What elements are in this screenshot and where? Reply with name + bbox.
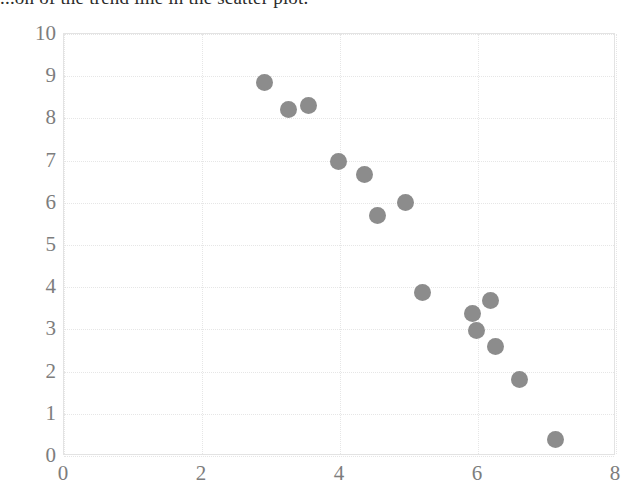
y-axis-tick-labels: 012345678910 <box>0 33 56 455</box>
y-axis-tick-label: 7 <box>2 149 56 170</box>
gridline-horizontal <box>64 76 614 77</box>
y-axis-tick-label: 3 <box>2 318 56 339</box>
clipped-question-text: ...on of the trend line in the scatter p… <box>0 0 635 9</box>
data-point <box>369 207 386 224</box>
y-axis-tick-label: 4 <box>2 276 56 297</box>
scatter-plot-figure: 012345678910 02468 <box>0 13 635 503</box>
plot-area <box>63 33 615 455</box>
gridline-horizontal <box>64 118 614 119</box>
x-axis-tick-label: 8 <box>585 463 635 484</box>
data-point <box>487 338 504 355</box>
clipped-question-text-band: ...on of the trend line in the scatter p… <box>0 0 635 13</box>
x-axis-tick-label: 2 <box>171 463 231 484</box>
x-axis-tick-label: 4 <box>309 463 369 484</box>
x-axis-tick-label: 0 <box>33 463 93 484</box>
gridline-horizontal <box>64 287 614 288</box>
y-axis-tick-label: 1 <box>2 402 56 423</box>
data-point <box>397 194 414 211</box>
gridline-horizontal <box>64 34 614 35</box>
gridline-vertical <box>340 34 341 454</box>
data-point <box>356 166 373 183</box>
y-axis-tick-label: 8 <box>2 107 56 128</box>
gridline-vertical <box>478 34 479 454</box>
gridline-horizontal <box>64 372 614 373</box>
data-point <box>464 305 481 322</box>
gridline-horizontal <box>64 203 614 204</box>
data-point <box>330 153 347 170</box>
y-axis-tick-label: 5 <box>2 234 56 255</box>
x-axis-tick-label: 6 <box>447 463 507 484</box>
gridline-vertical <box>64 34 65 454</box>
y-axis-tick-label: 10 <box>2 23 56 44</box>
gridline-vertical <box>616 34 617 454</box>
gridline-horizontal <box>64 245 614 246</box>
gridline-vertical <box>202 34 203 454</box>
data-point <box>482 292 499 309</box>
y-axis-tick-label: 9 <box>2 65 56 86</box>
data-point <box>547 431 564 448</box>
data-point <box>256 74 273 91</box>
data-point <box>280 101 297 118</box>
x-axis-tick-labels: 02468 <box>0 463 635 495</box>
y-axis-tick-label: 6 <box>2 191 56 212</box>
data-point <box>300 97 317 114</box>
gridline-horizontal <box>64 414 614 415</box>
data-point <box>511 371 528 388</box>
data-point <box>414 284 431 301</box>
gridline-horizontal <box>64 456 614 457</box>
data-point <box>468 322 485 339</box>
y-axis-tick-label: 2 <box>2 360 56 381</box>
gridline-horizontal <box>64 329 614 330</box>
